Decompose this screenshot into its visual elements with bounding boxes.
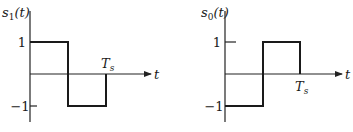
panel-s0: s0(t) t 1 −1 Ts xyxy=(201,5,351,122)
s0-tick-label-neg1: −1 xyxy=(204,99,223,114)
waveform-diagram: s1(t) t 1 −1 Ts s0(t) t 1 −1 Ts xyxy=(0,0,353,132)
s1-title: s1(t) xyxy=(2,5,30,22)
s0-period-label: Ts xyxy=(295,79,309,96)
s1-tick-label-neg1: −1 xyxy=(10,99,29,114)
panel-s1: s1(t) t 1 −1 Ts xyxy=(2,5,160,122)
s0-tick-label-1: 1 xyxy=(213,35,221,50)
s0-x-axis-label: t xyxy=(345,67,351,82)
s1-tick-label-1: 1 xyxy=(18,35,26,50)
s1-x-axis-label: t xyxy=(154,67,160,82)
s1-period-label: Ts xyxy=(101,56,115,73)
